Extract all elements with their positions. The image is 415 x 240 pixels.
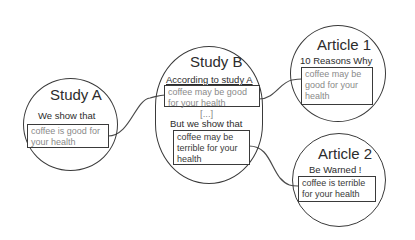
article-1-subtitle: 10 Reasons Why (300, 55, 372, 66)
article-1-title: Article 1 (317, 36, 371, 53)
article-2-claim-box: coffee is terrible for your health (298, 176, 376, 202)
study-b-own-claim-box: coffee may be terrible for your health (173, 130, 250, 165)
study-b-subtitle: According to study A (166, 74, 253, 85)
article-2-title: Article 2 (318, 145, 372, 162)
study-a-subtitle: We show that (38, 110, 95, 121)
study-a-title: Study A (50, 86, 102, 103)
study-a-claim-box: coffee is good for your health (27, 124, 109, 148)
article-2-subtitle: Be Warned ! (309, 164, 361, 175)
study-b-cited-claim-box: coffee may be good for your health (164, 85, 260, 107)
study-b-title: Study B (190, 53, 243, 70)
article-1-claim-box: coffee may be good for your health (301, 67, 373, 105)
study-b-subtitle2: But we show that (170, 118, 242, 129)
